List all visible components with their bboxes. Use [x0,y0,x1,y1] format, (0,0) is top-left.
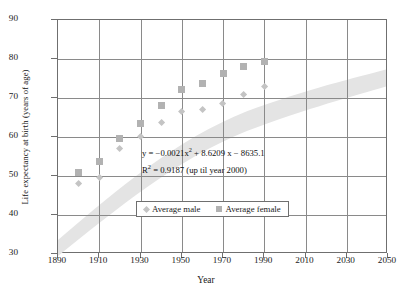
life-expectancy-chart: Life expectancy at birth (years of age) … [0,0,412,302]
y-axis-title: Life expectancy at birth (years of age) [20,27,30,247]
y-tick-mark [51,175,57,176]
data-point-female [240,63,247,70]
gridline-vertical [347,20,348,252]
gridline-horizontal [58,137,386,138]
y-tick-label: 40 [0,209,18,218]
x-axis-title: Year [0,275,412,285]
data-point-female [75,169,82,176]
gridline-vertical [264,20,265,252]
data-point-female [96,158,103,165]
y-tick-mark [51,253,57,254]
data-point-female [116,135,123,142]
y-tick-label: 70 [0,92,18,101]
trend-band [58,20,386,252]
y-tick-mark [51,136,57,137]
gridline-vertical [182,20,183,252]
data-point-female [137,120,144,127]
gridline-vertical [306,20,307,252]
legend-item-male: Average male [144,204,200,214]
y-tick-label: 30 [0,248,18,257]
data-point-female [261,58,268,65]
y-tick-mark [51,97,57,98]
plot-area [57,19,387,253]
chart-legend: Average male Average female [136,201,289,217]
data-point-female [220,70,227,77]
r-squared-line: R2 = 0.9187 (up til year 2000) [142,160,322,177]
gridline-vertical [223,20,224,252]
x-tick-label: 2050 [362,256,412,265]
y-tick-mark [51,19,57,20]
y-tick-label: 80 [0,53,18,62]
regression-annotation: y = −0.0021x2 + 8.6209 x − 8635.1 R2 = 0… [142,143,322,177]
y-tick-mark [51,58,57,59]
square-marker-icon [216,206,222,212]
data-point-female [199,80,206,87]
y-tick-label: 60 [0,131,18,140]
diamond-marker-icon [143,205,150,212]
legend-label-male: Average male [152,204,200,214]
data-point-female [158,102,165,109]
gridline-vertical [99,20,100,252]
y-tick-label: 90 [0,14,18,23]
gridline-horizontal [58,59,386,60]
data-point-female [178,86,185,93]
y-tick-label: 50 [0,170,18,179]
y-tick-mark [51,214,57,215]
legend-item-female: Average female [216,204,280,214]
legend-label-female: Average female [225,204,280,214]
equation-line: y = −0.0021x2 + 8.6209 x − 8635.1 [142,143,322,160]
